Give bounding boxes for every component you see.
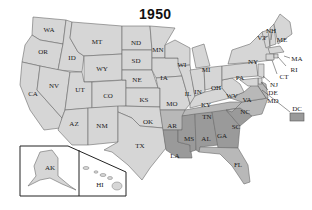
label-pa: PA <box>236 74 244 82</box>
label-de: DE <box>268 89 277 97</box>
label-ia: IA <box>160 74 167 82</box>
label-ut: UT <box>75 86 85 94</box>
label-al: AL <box>201 135 210 143</box>
label-wi: WI <box>178 61 188 69</box>
label-ny: NY <box>248 58 258 66</box>
label-mt: MT <box>92 38 103 46</box>
label-ky: KY <box>201 101 211 109</box>
label-tx: TX <box>135 142 144 150</box>
label-ne: NE <box>132 76 141 84</box>
label-ak: AK <box>45 164 55 172</box>
label-hi: HI <box>96 181 104 189</box>
state-mi <box>192 44 210 68</box>
us-map: WA OR CA ID NV MT WY UT CO AZ NM ND SD N… <box>0 0 312 210</box>
state-ct <box>266 54 274 60</box>
label-co: CO <box>103 92 113 100</box>
label-il: IL <box>185 90 192 98</box>
state-ma <box>268 46 284 54</box>
label-md: MD <box>267 97 278 105</box>
label-ri: RI <box>291 66 299 74</box>
state-de <box>258 78 262 84</box>
label-or: OR <box>38 48 48 56</box>
state-ri <box>274 54 278 58</box>
label-ar: AR <box>167 122 177 130</box>
label-ok: OK <box>143 118 153 126</box>
label-in: IN <box>194 88 201 96</box>
dc-box <box>290 113 304 121</box>
label-vt: VT <box>257 34 267 42</box>
label-va: VA <box>242 96 251 104</box>
label-nv: NV <box>49 82 59 90</box>
label-nm: NM <box>96 122 108 130</box>
label-mn: MN <box>152 46 163 54</box>
label-nj: NJ <box>270 81 278 89</box>
label-nc: NC <box>240 108 250 116</box>
label-wy: WY <box>96 65 108 73</box>
label-ks: KS <box>140 96 149 104</box>
label-mi: MI <box>202 66 211 74</box>
label-wa: WA <box>44 26 55 34</box>
label-az: AZ <box>69 120 78 128</box>
label-oh: OH <box>211 84 221 92</box>
label-sc: SC <box>232 123 241 131</box>
label-id: ID <box>68 54 75 62</box>
label-ms: MS <box>184 135 194 143</box>
label-fl: FL <box>234 161 242 169</box>
label-nd: ND <box>131 39 141 47</box>
state-fl <box>199 147 250 184</box>
label-wv: WV <box>226 92 238 100</box>
label-me: ME <box>277 36 288 44</box>
label-dc: DC <box>292 105 302 113</box>
label-ma: MA <box>291 55 302 63</box>
label-sd: SD <box>132 57 141 65</box>
label-tn: TN <box>202 113 211 121</box>
label-mo: MO <box>166 100 177 108</box>
label-ct: CT <box>280 73 290 81</box>
label-la: LA <box>170 152 179 160</box>
label-ga: GA <box>217 132 227 140</box>
label-ca: CA <box>28 90 38 98</box>
label-nh: NH <box>266 27 276 35</box>
